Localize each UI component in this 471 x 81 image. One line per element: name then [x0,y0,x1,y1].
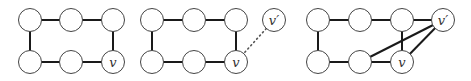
node-b2 [183,51,206,74]
node-a1 [19,9,42,32]
graph-diagram-svg: vvv′vv′ [0,0,471,81]
node-b2 [60,51,83,74]
graph-panel-1: v [19,9,125,74]
node-label: v′ [269,13,279,28]
node-b1 [19,51,42,74]
node-label: v [398,55,406,70]
node-a2 [349,9,372,32]
graph-panel-2: vv′ [141,9,286,74]
node-a2 [60,9,83,32]
node-a1 [307,9,330,32]
node-b2 [349,51,372,74]
node-a3 [102,9,125,32]
node-label: v [232,55,240,70]
node-b1 [141,51,164,74]
node-b1 [307,51,330,74]
graph-figure: vvv′vv′ [0,0,471,81]
node-a3 [225,9,248,32]
node-label: v′ [438,13,448,28]
node-a3 [391,9,414,32]
node-a1 [141,9,164,32]
graph-panel-3: vv′ [307,9,455,74]
node-a2 [183,9,206,32]
node-label: v [109,55,117,70]
